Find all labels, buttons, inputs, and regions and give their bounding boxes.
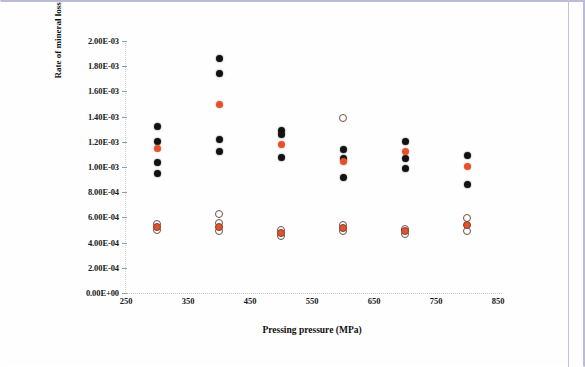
scatter-chart: 0.00E+002.00E-044.00E-046.00E-048.00E-04… (0, 0, 585, 367)
data-point (154, 170, 161, 177)
data-point (340, 158, 347, 165)
data-point (402, 148, 409, 155)
x-tick-label: 550 (292, 296, 332, 306)
data-point (278, 131, 285, 138)
x-axis-line (122, 293, 502, 294)
data-point (216, 148, 223, 155)
x-tick-label: 850 (478, 296, 518, 306)
data-point (340, 146, 347, 153)
data-point (154, 138, 161, 145)
data-point (402, 138, 409, 145)
x-tick-label: 450 (230, 296, 270, 306)
x-tick-label: 650 (354, 296, 394, 306)
y-tick-label: 2.00E-04 (53, 263, 119, 273)
data-point (216, 70, 223, 77)
y-tick-label: 1.20E-03 (53, 137, 119, 147)
y-tick-label: 1.40E-03 (53, 112, 119, 122)
x-tick-label: 250 (106, 296, 146, 306)
data-point (216, 136, 223, 143)
y-tick-label: 1.00E-03 (53, 162, 119, 172)
data-point (278, 154, 285, 161)
data-point (464, 152, 471, 159)
data-point (277, 229, 285, 237)
data-point (278, 141, 285, 148)
data-point (154, 145, 161, 152)
data-point (464, 163, 471, 170)
y-tick-label: 4.00E-04 (53, 238, 119, 248)
y-axis-title: Rate of mineral loss (g cm-2 h-1) (51, 0, 63, 88)
data-point (464, 181, 471, 188)
data-point (216, 55, 223, 62)
data-point (402, 155, 409, 162)
data-point (154, 159, 161, 166)
data-point (216, 101, 223, 108)
y-tick-mark (122, 293, 127, 294)
data-point (463, 221, 471, 229)
y-tick-label: 6.00E-04 (53, 212, 119, 222)
data-point (402, 165, 409, 172)
x-axis-title: Pressing pressure (MPa) (126, 325, 498, 335)
x-tick-label: 750 (416, 296, 456, 306)
data-point (340, 174, 347, 181)
plot-area (126, 41, 498, 293)
data-point (154, 123, 161, 130)
y-tick-label: 8.00E-04 (53, 187, 119, 197)
x-tick-label: 350 (168, 296, 208, 306)
